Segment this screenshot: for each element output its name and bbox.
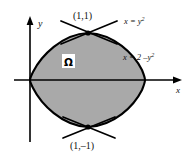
y-axis-label: y: [37, 18, 43, 29]
intersection-point-top: [85, 30, 90, 35]
y-axis-arrowhead: [27, 16, 34, 25]
figure-container: y x (1,1) (1,–1) x = y2 x = 2 –y2 Ω: [0, 0, 195, 152]
x-axis-label: x: [175, 85, 180, 95]
right-curve-label-exponent: 2: [151, 52, 154, 58]
region-diagram: y x (1,1) (1,–1) x = y2 x = 2 –y2 Ω: [0, 0, 195, 152]
x-axis-arrowhead: [173, 77, 182, 84]
point-label-top: (1,1): [73, 10, 92, 22]
right-curve-label: x = 2 –y2: [122, 52, 154, 62]
left-curve-label-exponent: 2: [142, 16, 145, 22]
intersection-point-bottom: [85, 124, 90, 129]
region-label-omega: Ω: [64, 56, 73, 68]
right-curve-label-text: x = 2 –y: [122, 52, 151, 62]
left-curve-label: x = y2: [123, 16, 145, 26]
point-label-bottom: (1,–1): [70, 140, 94, 152]
left-curve-label-text: x = y: [123, 16, 142, 26]
